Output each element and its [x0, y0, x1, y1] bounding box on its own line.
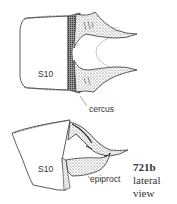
figure-caption: 721b lateral view — [133, 161, 160, 200]
s10-label-top: S10 — [38, 70, 53, 79]
dorsal-view-drawing — [20, 12, 137, 93]
caption-line-2: view — [133, 187, 160, 200]
cercus-leader-line — [80, 96, 87, 106]
cercus-label: cercus — [89, 105, 114, 114]
epiproct-label: epiproct — [90, 175, 120, 184]
epiproct-lateral — [66, 153, 110, 176]
s10-label-bottom: S10 — [38, 165, 53, 174]
cercus-upper — [74, 12, 137, 48]
caption-line-1: lateral — [133, 174, 160, 187]
figure-number: 721b — [133, 161, 160, 174]
